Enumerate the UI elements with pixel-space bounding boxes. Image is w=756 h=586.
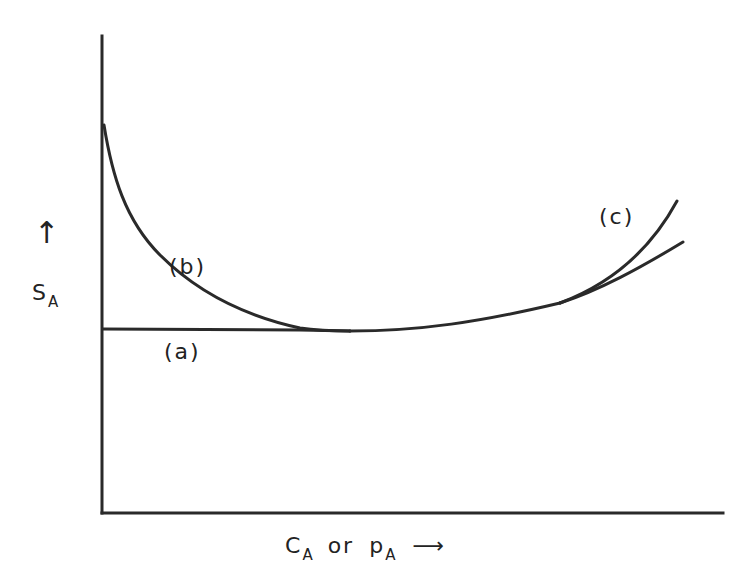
- x-axis-arrow-icon: ⟶: [412, 533, 446, 558]
- x-axis-label-sub1: A: [302, 546, 312, 564]
- label-curve-b: (b): [169, 256, 206, 278]
- label-curve-c: (c): [599, 206, 634, 228]
- chart-figure: [0, 0, 756, 586]
- y-axis-label-main: S: [32, 280, 48, 305]
- y-axis-label-sub: A: [48, 293, 58, 311]
- x-axis-label-sub2: A: [385, 546, 395, 564]
- y-axis-label: SA: [32, 282, 58, 304]
- x-axis-label: CA or pA ⟶: [285, 535, 446, 557]
- curve-b: [104, 125, 350, 331]
- x-axis-label-main2: p: [369, 533, 385, 558]
- x-axis-label-or: or: [328, 533, 355, 558]
- y-axis-arrow-icon: ↑: [34, 218, 59, 248]
- x-axis-label-main1: C: [285, 533, 302, 558]
- curve-common-rise: [350, 303, 560, 331]
- label-curve-a: (a): [164, 341, 201, 363]
